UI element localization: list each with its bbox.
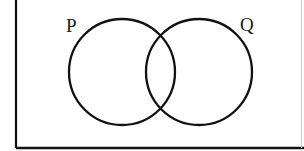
set-p-circle: [69, 19, 175, 125]
set-q-circle: [146, 19, 252, 125]
set-p-label: P: [66, 15, 77, 36]
set-q-label: Q: [240, 14, 254, 35]
venn-diagram: P Q: [0, 0, 304, 151]
